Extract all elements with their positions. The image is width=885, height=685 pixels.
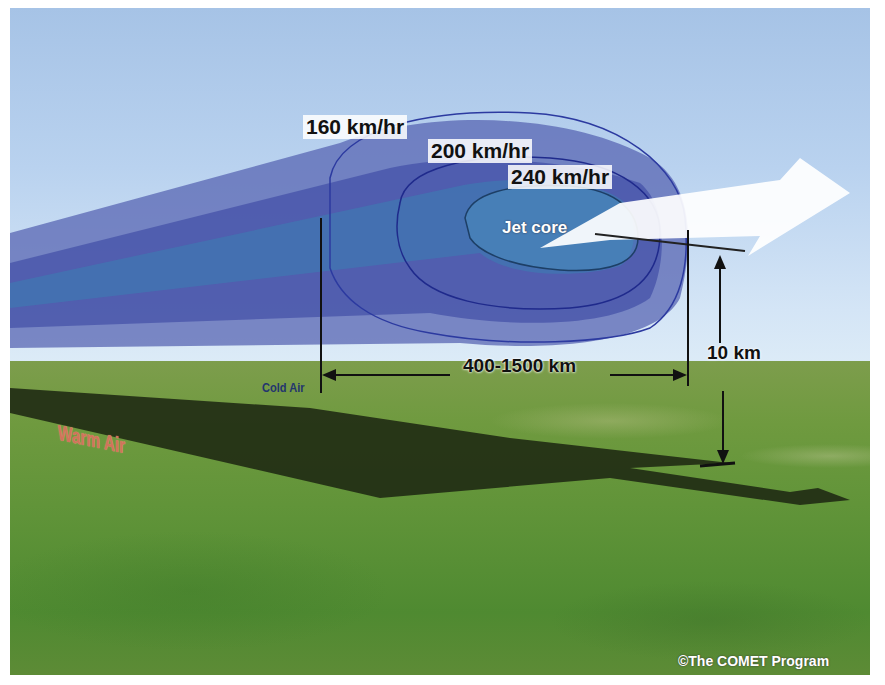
cold-air-label: Cold Air — [262, 380, 305, 395]
speed-label-240: 240 km/hr — [508, 165, 612, 189]
arrow-left-icon — [322, 369, 336, 381]
jet-core-label: Jet core — [502, 218, 567, 238]
arrow-up-icon — [714, 255, 726, 269]
credit-label: ©The COMET Program — [678, 653, 829, 669]
height-label: 10 km — [707, 342, 761, 364]
speed-label-160: 160 km/hr — [303, 115, 407, 139]
diagram-frame: 160 km/hr 200 km/hr 240 km/hr Jet core 4… — [10, 8, 870, 675]
width-label: 400-1500 km — [463, 355, 576, 377]
speed-label-200: 200 km/hr — [428, 139, 532, 163]
arrow-right-icon — [673, 369, 687, 381]
